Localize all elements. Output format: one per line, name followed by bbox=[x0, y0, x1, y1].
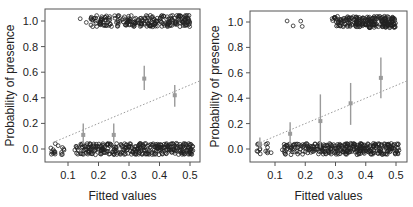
plot-frame bbox=[45, 9, 200, 162]
y-tick-label: 0.6 bbox=[228, 67, 243, 79]
x-axis: 0.10.20.30.40.5 bbox=[60, 162, 197, 181]
x-tick-label: 0.1 bbox=[60, 169, 75, 181]
y-tick-label: 0.4 bbox=[228, 92, 243, 104]
y-axis: 0.00.20.40.60.81.0 bbox=[23, 15, 45, 155]
x-tick-label: 0.2 bbox=[91, 169, 106, 181]
x-tick-label: 0.4 bbox=[152, 169, 167, 181]
y-tick-label: 0.2 bbox=[228, 118, 243, 130]
binned-error-bars bbox=[81, 66, 177, 144]
y-tick-label: 0.0 bbox=[228, 143, 243, 155]
binned-mean-point bbox=[142, 77, 146, 81]
y-tick-label: 0.6 bbox=[23, 66, 38, 78]
y-tick-label: 0.4 bbox=[23, 92, 38, 104]
x-tick-label: 0.3 bbox=[121, 169, 136, 181]
binned-mean-point bbox=[112, 133, 116, 137]
binned-mean-point bbox=[81, 133, 85, 137]
x-axis-label: Fitted values bbox=[88, 189, 156, 203]
y-tick-label: 0.2 bbox=[23, 117, 38, 129]
x-axis-label: Fitted values bbox=[294, 189, 362, 203]
x-tick-label: 0.5 bbox=[388, 169, 403, 181]
left-scatter-plot: 0.00.20.40.60.81.00.10.20.30.40.5Fitted … bbox=[0, 0, 206, 207]
reference-line bbox=[53, 80, 202, 143]
y-axis-label: Probability of presence bbox=[3, 24, 17, 146]
y-tick-label: 1.0 bbox=[228, 16, 243, 28]
y-tick-label: 0.8 bbox=[23, 41, 38, 53]
x-tick-label: 0.1 bbox=[267, 169, 282, 181]
y-tick-label: 0.0 bbox=[23, 143, 38, 155]
right-scatter-plot: 0.00.20.40.60.81.00.10.20.30.40.5Fitted … bbox=[206, 0, 413, 207]
y-tick-label: 0.8 bbox=[228, 41, 243, 53]
binned-mean-point bbox=[379, 76, 383, 80]
y-axis: 0.00.20.40.60.81.0 bbox=[228, 16, 250, 155]
binned-mean-point bbox=[349, 101, 353, 105]
binned-mean-point bbox=[288, 132, 292, 136]
binned-mean-point bbox=[318, 119, 322, 123]
binned-mean-point bbox=[258, 142, 262, 146]
plot-area bbox=[255, 14, 408, 156]
left-chart-panel: 0.00.20.40.60.81.00.10.20.30.40.5Fitted … bbox=[0, 0, 206, 207]
x-tick-label: 0.2 bbox=[298, 169, 313, 181]
x-axis: 0.10.20.30.40.5 bbox=[267, 162, 403, 181]
plot-frame bbox=[250, 11, 407, 162]
binned-mean-point bbox=[173, 93, 177, 97]
plot-area bbox=[49, 14, 202, 157]
y-axis-label: Probability of presence bbox=[208, 25, 222, 147]
y-tick-label: 1.0 bbox=[23, 15, 38, 27]
reference-line bbox=[257, 80, 408, 144]
right-chart-panel: 0.00.20.40.60.81.00.10.20.30.40.5Fitted … bbox=[206, 0, 413, 207]
observed-points bbox=[49, 14, 195, 157]
x-tick-label: 0.3 bbox=[328, 169, 343, 181]
x-tick-label: 0.4 bbox=[358, 169, 373, 181]
x-tick-label: 0.5 bbox=[182, 169, 197, 181]
